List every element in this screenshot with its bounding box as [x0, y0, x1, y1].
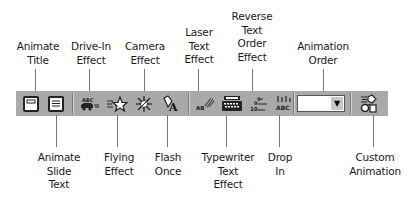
label-animate-title: Animate Title — [17, 40, 60, 67]
svg-text:ABC: ABC — [82, 97, 94, 103]
label-drive-in-effect: Drive-In Effect — [71, 40, 111, 67]
reverse-text-order-effect-button[interactable]: 9 9 10 — [247, 93, 271, 114]
reverse-order-icon: 9 9 10 — [249, 95, 269, 113]
label-camera-effect: Camera Effect — [125, 40, 165, 67]
drop-in-icon: ABC — [274, 95, 294, 113]
toolbar-separator — [293, 93, 295, 114]
laser-icon: AB — [195, 95, 215, 113]
custom-animation-button[interactable] — [357, 93, 381, 114]
leader-line — [117, 115, 118, 147]
label-flying-effect: Flying Effect — [104, 151, 134, 178]
label-animate-slide-text: Animate Slide Text — [38, 151, 81, 192]
leader-line — [226, 115, 227, 147]
toolbar-separator — [350, 93, 352, 114]
svg-text:A: A — [168, 101, 178, 113]
drive-in-effect-button[interactable]: ABC — [78, 93, 102, 114]
label-typewriter-text-effect: Typewriter Text Effect — [202, 151, 255, 192]
leader-line — [373, 115, 374, 147]
label-animation-order: Animation Order — [297, 40, 349, 67]
laser-text-effect-button[interactable]: AB — [193, 93, 217, 114]
leader-line — [279, 115, 280, 147]
typewriter-icon — [221, 95, 243, 113]
animate-title-icon — [22, 95, 40, 113]
svg-text:10: 10 — [250, 106, 258, 112]
animate-slide-text-button[interactable] — [45, 93, 67, 114]
animation-order-dropdown[interactable]: ▼ — [297, 95, 345, 112]
custom-animation-icon — [359, 94, 379, 114]
leader-line — [167, 115, 168, 147]
chevron-down-icon[interactable]: ▼ — [331, 97, 343, 110]
toolbar-separator — [72, 93, 74, 114]
flash-icon: A — [161, 95, 181, 113]
animate-title-button[interactable] — [20, 93, 42, 114]
label-custom-animation: Custom Animation — [349, 151, 401, 178]
label-laser-text-effect: Laser Text Effect — [184, 26, 213, 67]
star-icon — [106, 95, 128, 113]
svg-text:ABC: ABC — [276, 104, 290, 111]
car-icon: ABC — [79, 96, 101, 112]
label-reverse-text-order-effect: Reverse Text Order Effect — [232, 10, 273, 64]
flash-once-button[interactable]: A — [159, 93, 183, 114]
animation-effects-toolbar: ABC A AB — [16, 91, 388, 116]
toolbar-separator — [188, 93, 190, 114]
drop-in-button[interactable]: ABC — [273, 93, 295, 114]
typewriter-text-effect-button[interactable] — [220, 93, 244, 114]
label-flash-once: Flash Once — [155, 151, 182, 178]
svg-text:AB: AB — [196, 105, 204, 111]
leader-line — [56, 115, 57, 147]
label-drop-in: Drop In — [268, 151, 292, 178]
animate-slide-text-icon — [47, 95, 65, 113]
camera-burst-icon — [134, 95, 154, 113]
flying-effect-button[interactable] — [105, 93, 129, 114]
camera-effect-button[interactable] — [132, 93, 156, 114]
